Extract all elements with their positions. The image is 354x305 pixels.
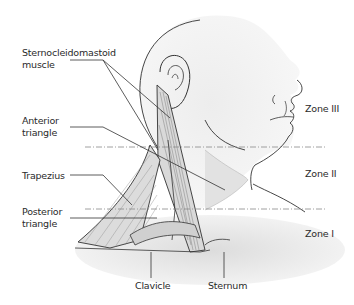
- label-posterior-triangle: Posterior triangle: [22, 206, 62, 229]
- label-line-2: triangle: [22, 127, 59, 139]
- label-anterior-triangle: Anterior triangle: [22, 115, 59, 138]
- label-line-1: Posterior: [22, 206, 62, 218]
- label-line-2: muscle: [22, 59, 116, 71]
- label-trapezius: Trapezius: [22, 170, 65, 182]
- label-zone-ii: Zone II: [305, 168, 336, 180]
- label-clavicle: Clavicle: [135, 280, 170, 292]
- label-zone-i: Zone I: [305, 228, 334, 240]
- label-zone-iii: Zone III: [305, 103, 339, 115]
- label-line-1: Sternocleidomastoid: [22, 47, 116, 59]
- label-line-2: triangle: [22, 218, 62, 230]
- throat-line: [253, 184, 305, 212]
- label-sternum: Sternum: [208, 280, 247, 292]
- label-sternocleidomastoid: Sternocleidomastoid muscle: [22, 47, 116, 70]
- label-line-1: Anterior: [22, 115, 59, 127]
- neck-illustration: [0, 0, 354, 305]
- neck-zones-diagram: Sternocleidomastoid muscle Anterior tria…: [0, 0, 354, 305]
